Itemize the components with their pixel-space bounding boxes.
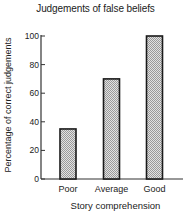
y-tick-label: 20 xyxy=(30,145,40,155)
x-category-labels: PoorAverageGood xyxy=(58,184,165,194)
bar-poor xyxy=(60,129,76,179)
bar-average xyxy=(104,79,120,179)
y-tick-label: 100 xyxy=(25,31,39,41)
bar-chart: 020406080100 PoorAverageGood xyxy=(0,0,191,221)
y-tick-label: 40 xyxy=(30,117,40,127)
x-tick-label-average: Average xyxy=(95,184,128,194)
x-tick-label-poor: Poor xyxy=(58,184,77,194)
y-tick-label: 80 xyxy=(30,60,40,70)
bars xyxy=(60,36,163,179)
y-tick-label: 60 xyxy=(30,88,40,98)
bar-good xyxy=(147,36,163,179)
x-tick-label-good: Good xyxy=(143,184,165,194)
y-tick-label: 0 xyxy=(34,174,39,184)
